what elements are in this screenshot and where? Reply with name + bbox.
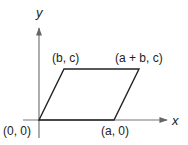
x-axis-label: x	[171, 113, 179, 128]
parallelogram-diagram: y x (0, 0) (a, 0) (b, c) (a + b, c)	[0, 0, 188, 145]
vertex-label-origin: (0, 0)	[3, 124, 31, 138]
vertex-label-abc: (a + b, c)	[115, 51, 163, 65]
vertex-label-a0: (a, 0)	[101, 124, 129, 138]
parallelogram-shape	[39, 69, 139, 120]
vertex-label-bc: (b, c)	[52, 51, 79, 65]
y-axis-label: y	[35, 5, 44, 20]
